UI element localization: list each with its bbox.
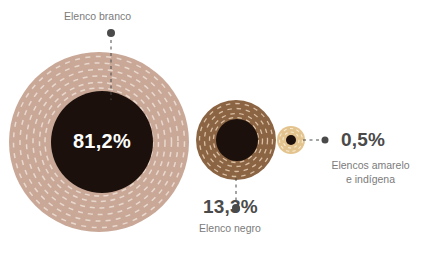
label-elenco-negro: Elenco negro (199, 222, 261, 235)
value-elencos-amarelo-indigena: 0,5% (341, 129, 385, 151)
connector-amarelo (303, 137, 329, 144)
connector-amarelo-dot (322, 137, 329, 144)
label-elenco-branco: Elenco branco (64, 10, 131, 23)
bubble-negro-core (216, 119, 258, 161)
bubble-negro[interactable] (196, 100, 276, 180)
bubble-amarelo[interactable] (277, 126, 305, 154)
value-elenco-negro: 13,3% (203, 196, 258, 218)
bubble-chart: 81,2% Elenco branco 13,3% Elenco negro 0… (0, 0, 428, 275)
bubble-branco-value: 81,2% (73, 130, 131, 152)
label-amarelo-line2: e indígena (346, 173, 395, 185)
label-elencos-amarelo-indigena: Elencos amarelo e indígena (318, 158, 423, 186)
label-amarelo-line1: Elencos amarelo (331, 159, 409, 171)
bubble-amarelo-core (286, 135, 296, 145)
connector-branco-dot (107, 29, 115, 37)
